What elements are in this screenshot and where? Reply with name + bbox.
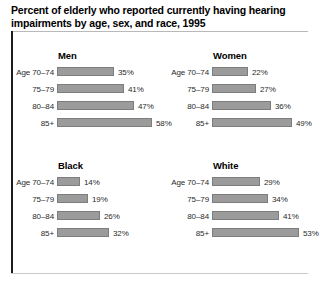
bar-value-label: 14% <box>84 178 100 187</box>
bar <box>212 211 279 220</box>
bar-row: 80–8441% <box>155 209 320 226</box>
bar-track <box>212 228 299 237</box>
bar-track <box>57 211 100 220</box>
bar-category-label: 80–84 <box>32 102 54 111</box>
bar-category-label: 75–79 <box>32 85 54 94</box>
bar-row: 75–7934% <box>155 192 320 209</box>
bar-value-label: 35% <box>118 68 134 77</box>
bar-row: 75–7927% <box>155 82 320 99</box>
bar-rows-women: Age 70–7422%75–7927%80–8436%85+49% <box>155 65 320 133</box>
bar-row: Age 70–7414% <box>0 175 165 192</box>
panel-title-men: Men <box>58 50 77 61</box>
panel-title-black: Black <box>58 160 83 171</box>
bar-category-label: 75–79 <box>32 195 54 204</box>
bar <box>57 194 88 203</box>
chart-title: Percent of elderly who reported currentl… <box>11 4 311 29</box>
chart-title-line-1: Percent of elderly who reported currentl… <box>11 4 311 17</box>
bar-category-label: Age 70–74 <box>171 68 209 77</box>
panel-title-white: White <box>213 160 238 171</box>
bar-value-label: 32% <box>113 229 129 238</box>
bar-track <box>212 67 248 76</box>
bar <box>212 228 299 237</box>
bar-category-label: 85+ <box>41 229 54 238</box>
bar-row: 75–7919% <box>0 192 165 209</box>
bar-row: 80–8426% <box>0 209 165 226</box>
bar-row: Age 70–7435% <box>0 65 165 82</box>
bar-track <box>57 177 80 186</box>
bar-track <box>212 194 268 203</box>
bar-value-label: 47% <box>138 102 154 111</box>
bottom-divider-rule <box>11 273 308 274</box>
bar <box>57 118 152 127</box>
bar <box>57 67 114 76</box>
bar-track <box>57 194 88 203</box>
bar-track <box>212 118 292 127</box>
panel-title-women: Women <box>213 50 247 61</box>
bar-value-label: 41% <box>128 85 144 94</box>
bar-value-label: 49% <box>296 119 312 128</box>
bar-category-label: 85+ <box>41 119 54 128</box>
bar-category-label: 75–79 <box>187 85 209 94</box>
bar-track <box>57 228 109 237</box>
bar-value-label: 36% <box>275 102 291 111</box>
bar-row: 80–8447% <box>0 99 165 116</box>
bar-track <box>57 101 134 110</box>
bar-value-label: 19% <box>92 195 108 204</box>
bar-value-label: 41% <box>283 212 299 221</box>
bar <box>212 194 268 203</box>
bar <box>212 101 271 110</box>
bar <box>57 177 80 186</box>
bar-category-label: 85+ <box>196 229 209 238</box>
bar-value-label: 29% <box>264 178 280 187</box>
bar <box>57 211 100 220</box>
bar-track <box>212 84 256 93</box>
bar <box>57 84 124 93</box>
bar-value-label: 34% <box>272 195 288 204</box>
bar-rows-black: Age 70–7414%75–7919%80–8426%85+32% <box>0 175 165 243</box>
bar <box>212 67 248 76</box>
bar-track <box>57 118 152 127</box>
bar-track <box>57 84 124 93</box>
bar-row: 85+49% <box>155 116 320 133</box>
bar <box>57 101 134 110</box>
bar-category-label: Age 70–74 <box>16 178 54 187</box>
bar-value-label: 22% <box>252 68 268 77</box>
title-divider-rule <box>11 31 308 32</box>
bar <box>57 228 109 237</box>
bar-row: Age 70–7422% <box>155 65 320 82</box>
bar-rows-white: Age 70–7429%75–7934%80–8441%85+53% <box>155 175 320 243</box>
bar-category-label: 80–84 <box>32 212 54 221</box>
bar-rows-men: Age 70–7435%75–7941%80–8447%85+58% <box>0 65 165 133</box>
bar <box>212 118 292 127</box>
bar <box>212 84 256 93</box>
bar-category-label: Age 70–74 <box>16 68 54 77</box>
bar-track <box>212 211 279 220</box>
bar-row: 75–7941% <box>0 82 165 99</box>
bar <box>212 177 260 186</box>
chart-figure: Percent of elderly who reported currentl… <box>0 0 320 281</box>
bar-row: Age 70–7429% <box>155 175 320 192</box>
bar-row: 85+58% <box>0 116 165 133</box>
bar-category-label: 80–84 <box>187 102 209 111</box>
chart-title-line-2: impairments by age, sex, and race, 1995 <box>11 17 311 30</box>
bar-track <box>57 67 114 76</box>
bar-value-label: 27% <box>260 85 276 94</box>
bar-track <box>212 101 271 110</box>
bar-category-label: 85+ <box>196 119 209 128</box>
bar-row: 80–8436% <box>155 99 320 116</box>
bar-category-label: 75–79 <box>187 195 209 204</box>
bar-category-label: Age 70–74 <box>171 178 209 187</box>
bar-row: 85+53% <box>155 226 320 243</box>
bar-category-label: 80–84 <box>187 212 209 221</box>
bar-value-label: 26% <box>104 212 120 221</box>
bar-value-label: 53% <box>303 229 319 238</box>
bar-row: 85+32% <box>0 226 165 243</box>
bar-track <box>212 177 260 186</box>
